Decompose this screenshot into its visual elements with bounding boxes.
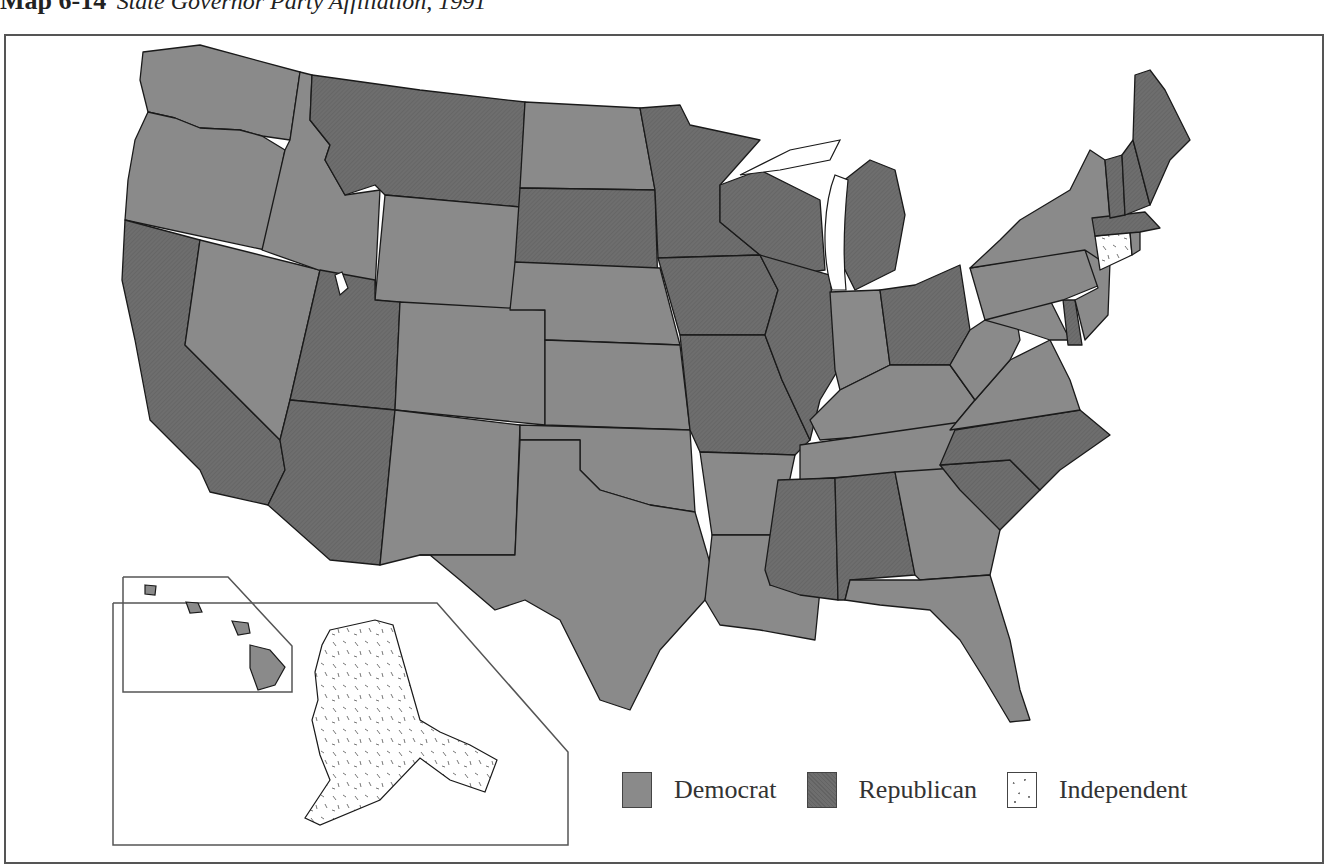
legend: Democrat Republican Independent [622, 772, 1217, 808]
state-FL [845, 575, 1030, 722]
state-MT [310, 75, 525, 207]
state-RI [1130, 232, 1140, 255]
state-KS [545, 340, 690, 430]
state-HI-kauai [145, 585, 156, 595]
state-AK [305, 620, 497, 825]
republican-swatch-icon [807, 772, 837, 808]
state-CO [395, 302, 545, 425]
legend-item-republican: Republican [807, 772, 977, 808]
state-IA [658, 255, 778, 335]
state-HI-maui [232, 621, 250, 635]
lake-michigan [825, 175, 848, 290]
legend-label-republican: Republican [859, 775, 977, 805]
state-AZ [268, 400, 395, 565]
legend-item-democrat: Democrat [622, 772, 777, 808]
state-NM [380, 410, 520, 565]
state-HI-big-island [250, 645, 285, 690]
state-WY [375, 195, 520, 315]
independent-swatch-icon [1007, 772, 1037, 808]
state-OH [880, 265, 970, 365]
state-MS [765, 478, 838, 600]
state-ND [520, 102, 655, 190]
legend-label-independent: Independent [1059, 775, 1188, 805]
democrat-swatch-icon [622, 772, 652, 808]
legend-label-democrat: Democrat [674, 775, 777, 805]
state-CT [1095, 232, 1132, 270]
state-NY [970, 150, 1110, 268]
legend-item-independent: Independent [1007, 772, 1188, 808]
